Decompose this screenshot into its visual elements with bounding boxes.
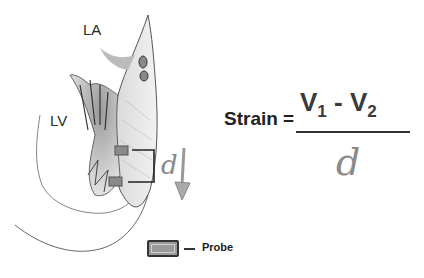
fraction-bar	[296, 131, 410, 133]
probe-legend-icon	[147, 240, 179, 257]
left-atrium-label: LA	[83, 21, 101, 38]
v2-symbol: V	[350, 87, 367, 117]
v1-symbol: V	[300, 87, 317, 117]
minus-sign: -	[327, 87, 350, 117]
probe-legend-leader	[184, 248, 195, 250]
distance-label: d	[161, 150, 178, 180]
formula-numerator: V1 - V2	[300, 87, 377, 122]
heart-illustration	[0, 0, 424, 278]
strain-diagram: LA LV d Strain = V1 - V2 d Probe	[0, 0, 424, 278]
v1-subscript: 1	[317, 102, 326, 121]
v2-subscript: 2	[367, 102, 376, 121]
formula-denominator: d	[336, 140, 360, 184]
probe-legend-label: Probe	[202, 241, 233, 253]
strain-formula-lhs: Strain =	[224, 108, 294, 130]
left-ventricle-label: LV	[50, 112, 67, 129]
